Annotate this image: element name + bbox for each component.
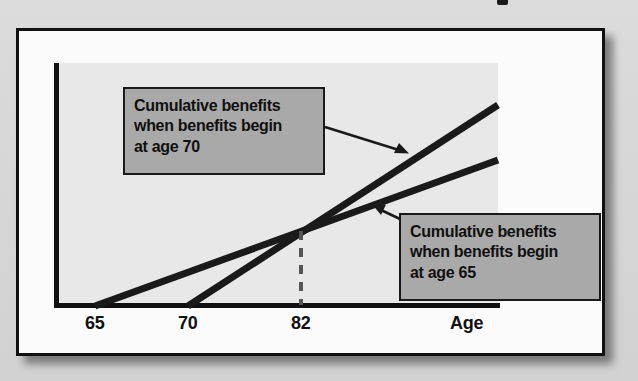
y-axis-line (54, 63, 59, 308)
callout-age-65-line-3: at age 65 (410, 263, 590, 283)
callout-age-70-line-1: Cumulative benefits (134, 96, 314, 116)
figure-frame: 65 70 82 Age Cumulative benefits when be… (16, 28, 605, 356)
x-axis-label-age: Age (450, 313, 483, 334)
callout-age-70-line-3: at age 70 (134, 137, 314, 157)
callout-age-65-line-1: Cumulative benefits (410, 222, 590, 242)
callout-box-age-65: Cumulative benefits when benefits begin … (399, 213, 601, 301)
x-tick-label-82: 82 (291, 313, 311, 334)
callout-age-70-line-2: when benefits begin (134, 116, 314, 136)
callout-age-65-line-2: when benefits begin (410, 242, 590, 262)
cropped-title-glyph (497, 0, 508, 5)
x-tick-label-70: 70 (178, 313, 198, 334)
x-tick-label-65: 65 (85, 313, 105, 334)
callout-box-age-70: Cumulative benefits when benefits begin … (123, 87, 325, 175)
x-axis-line (54, 303, 500, 308)
figure-screenshot: 65 70 82 Age Cumulative benefits when be… (0, 0, 638, 381)
